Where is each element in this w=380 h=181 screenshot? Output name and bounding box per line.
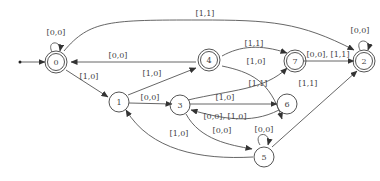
edge-6-3: [0,0], [1,0]: [191, 110, 279, 121]
edge-4-7: [1,1]: [222, 39, 287, 56]
edge-4-0: [0,0]: [71, 51, 196, 62]
state-label: 0: [53, 58, 58, 67]
edge-label: [1,1]: [196, 9, 215, 18]
state-7[interactable]: 7: [284, 50, 306, 72]
edge-7-2: [0,0], [1,1]: [304, 50, 354, 61]
state-label: 4: [206, 56, 211, 65]
edge-0-1: [1,0]: [66, 70, 108, 97]
edge-label: [0,0]: [351, 26, 370, 35]
edge-3-6: [1,0]: [190, 93, 277, 104]
edge-4-6: [1,0]: [222, 57, 282, 119]
edge-2-2: [0,0]: [351, 26, 370, 50]
edge-label: [1,1]: [249, 79, 268, 88]
state-4[interactable]: 4: [198, 49, 220, 71]
edge-3-7: [1,1]: [188, 68, 287, 100]
initial-state-arrow: [19, 61, 46, 64]
edge-label: [1,0]: [170, 129, 189, 138]
edge-label: [1,0]: [247, 57, 266, 66]
edge-0-0: [0,0]: [47, 28, 66, 52]
state-2[interactable]: 2: [353, 50, 375, 72]
edge-label: [1,0]: [216, 93, 235, 102]
edge-label: [1,1]: [299, 79, 318, 88]
state-label: 5: [261, 153, 266, 162]
state-6[interactable]: 6: [277, 94, 297, 114]
edge-label: [0,0]: [47, 28, 66, 37]
state-0[interactable]: 0: [45, 51, 67, 73]
edge-label: [1,0]: [143, 69, 162, 78]
state-label: 7: [292, 57, 297, 66]
state-label: 6: [284, 100, 289, 109]
edge-label: [0,0]: [255, 125, 274, 134]
state-diagram: [0,0] [1,1] [0,0] [1,0] [1,0] [1,1] [1,0…: [0, 0, 380, 181]
state-label: 2: [361, 57, 366, 66]
state-5[interactable]: 5: [254, 147, 274, 167]
state-1[interactable]: 1: [109, 92, 129, 112]
edge-5-5: [0,0]: [255, 125, 274, 145]
state-3[interactable]: 3: [170, 95, 190, 115]
edge-5-2: [1,1]: [272, 71, 357, 147]
state-label: 1: [116, 98, 121, 107]
edge-label: [0,0]: [109, 51, 128, 60]
edge-label: [0,0]: [141, 93, 160, 102]
state-label: 3: [177, 101, 182, 110]
edge-label: [0,0], [1,0]: [203, 112, 246, 121]
edge-label: [1,0]: [80, 72, 99, 81]
edge-1-3: [0,0]: [129, 93, 172, 104]
edge-label: [1,1]: [245, 39, 264, 48]
edge-1-4: [1,0]: [128, 68, 196, 95]
edge-label: [0,0], [1,1]: [306, 50, 349, 59]
edge-0-2: [1,1]: [64, 9, 354, 51]
edge-label: [0,0]: [213, 126, 232, 135]
